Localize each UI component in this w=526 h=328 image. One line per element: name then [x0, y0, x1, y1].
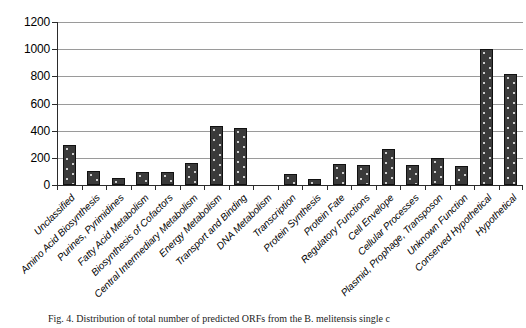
bar	[504, 74, 517, 185]
bar-slot	[131, 22, 156, 185]
bar-slot	[180, 22, 205, 185]
bar-slot	[106, 22, 131, 185]
bar-slot	[327, 22, 352, 185]
bar-slot	[351, 22, 376, 185]
bar	[210, 126, 223, 185]
bar-slot	[499, 22, 524, 185]
y-axis-tick-label: 400	[4, 125, 50, 137]
y-axis-tick-labels: 020040060080010001200	[4, 0, 50, 200]
x-axis-category-labels: UnclassifiedAmino Acid BiosynthesisPurin…	[57, 190, 523, 310]
bar-slot	[474, 22, 499, 185]
bar-slot	[376, 22, 401, 185]
y-axis-tick-mark	[52, 22, 58, 23]
bar	[455, 166, 468, 185]
bar	[87, 171, 100, 185]
bar-slot	[82, 22, 107, 185]
bar-slot	[204, 22, 229, 185]
bar	[63, 145, 76, 185]
bar	[480, 49, 493, 185]
y-axis-tick-label: 1200	[4, 16, 50, 28]
bar-slot	[155, 22, 180, 185]
y-axis-tick-label: 600	[4, 98, 50, 110]
bar	[112, 178, 125, 185]
bar	[406, 165, 419, 185]
bar	[333, 164, 346, 185]
bar	[431, 158, 444, 185]
bar	[185, 163, 198, 185]
bar	[136, 172, 149, 185]
figure-container: 020040060080010001200 UnclassifiedAmino …	[0, 0, 526, 328]
bar-slot	[278, 22, 303, 185]
figure-caption: Fig. 4. Distribution of total number of …	[48, 313, 518, 324]
y-axis-tick-mark	[52, 104, 58, 105]
bar-slot	[400, 22, 425, 185]
bar	[382, 149, 395, 185]
x-axis-label-slot: Hypothetical	[499, 190, 524, 310]
y-axis-tick-mark	[52, 158, 58, 159]
y-axis-tick-mark	[52, 76, 58, 77]
bar	[161, 172, 174, 185]
y-axis-tick-label: 200	[4, 152, 50, 164]
bar-chart: 020040060080010001200 UnclassifiedAmino …	[0, 0, 526, 200]
y-axis-tick-label: 800	[4, 70, 50, 82]
bar-slot	[57, 22, 82, 185]
bar-slot	[229, 22, 254, 185]
bar	[284, 174, 297, 185]
bar-slot	[425, 22, 450, 185]
y-axis-tick-mark	[52, 185, 58, 186]
y-axis-tick-label: 0	[4, 179, 50, 191]
plot-area	[57, 22, 523, 185]
bar	[357, 165, 370, 185]
bar-series	[57, 22, 523, 185]
y-axis-tick-mark	[52, 131, 58, 132]
bar-slot	[302, 22, 327, 185]
bar-slot	[253, 22, 278, 185]
y-axis-tick-mark	[52, 49, 58, 50]
bar	[234, 128, 247, 185]
y-axis-tick-label: 1000	[4, 43, 50, 55]
bar-slot	[450, 22, 475, 185]
